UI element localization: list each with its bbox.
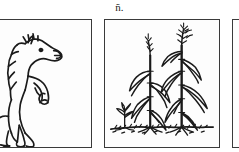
panel-horse [0,19,92,148]
panel-third [232,19,239,148]
panel-maize [104,19,220,148]
horse-illustration [0,20,91,147]
figure-container: ñ. [0,0,239,152]
maize-illustration [105,20,219,147]
figure-caption: ñ. [0,1,239,14]
empty-panel [233,20,239,147]
